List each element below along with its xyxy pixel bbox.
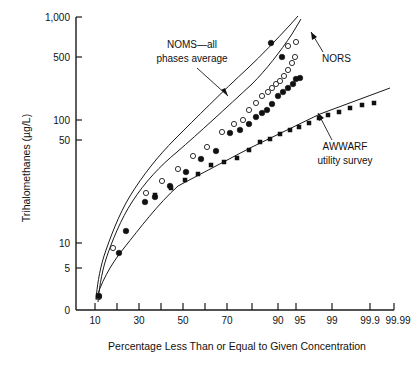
data-point [280,89,286,95]
y-tick-label-100: 100 [53,115,70,126]
data-point [222,160,226,164]
data-point [96,294,100,298]
data-point [231,121,236,126]
x-tick-label-95: 95 [294,315,306,326]
data-point [143,190,148,195]
data-point [253,114,259,120]
data-point [237,127,243,133]
data-point [285,85,291,91]
data-point [372,101,376,105]
y-tick-label-500: 500 [53,52,70,63]
awwarf-label-line1: AWWARF [323,141,368,152]
data-point [285,67,290,72]
data-point [326,113,330,117]
chart-container: 1,000 500 100 50 10 5 0 10 30 50 [0,0,417,366]
data-point [169,186,173,190]
data-point [290,81,296,87]
data-point [275,93,281,99]
data-point [292,54,297,59]
data-point [198,156,204,162]
data-point [269,101,275,107]
data-point [285,43,290,48]
data-point [277,78,282,83]
data-point [307,121,311,125]
data-point [190,153,195,158]
data-point [268,137,272,141]
x-tick-label-99: 99 [326,315,338,326]
y-axis-title: Trihalomethanes (µg/L) [20,114,32,222]
x-tick-label-10: 10 [89,315,101,326]
data-point [297,125,301,129]
noms-label-line1: NOMS—all [167,39,217,50]
data-point [360,103,364,107]
y-tick-label-0: 0 [64,305,70,316]
data-point [247,148,251,152]
data-point [153,193,157,197]
data-point [279,54,285,60]
data-point [204,144,209,149]
data-point [268,40,274,46]
data-point [253,100,258,105]
x-tick-label-70: 70 [221,315,233,326]
y-tick-label-1000: 1,000 [45,12,70,23]
y-tick-label-50: 50 [59,135,71,146]
data-point [110,245,115,250]
data-point [209,163,213,167]
data-point [240,117,245,122]
data-point [123,228,129,234]
x-tick-label-99-99: 99.99 [385,315,410,326]
data-point [159,178,164,183]
data-point [337,110,341,114]
x-axis-title: Percentage Less Than or Equal to Given C… [108,340,366,352]
data-point [265,89,270,94]
noms-label-line2: phases average [156,53,228,64]
data-point [116,250,122,256]
data-point [183,169,189,175]
data-point [246,107,251,112]
x-tick-label-90: 90 [272,315,284,326]
data-point [183,178,187,182]
data-point [213,148,219,154]
data-point [264,107,270,113]
y-tick-label-5: 5 [64,263,70,274]
data-point [288,128,292,132]
nors-label: NORS [322,53,351,64]
data-point [297,75,303,81]
data-point [259,110,265,116]
awwarf-label-line2: utility survey [317,155,372,166]
data-point [142,199,148,205]
trihalomethanes-probability-plot: 1,000 500 100 50 10 5 0 10 30 50 [0,0,417,366]
data-point [219,129,224,134]
x-tick-label-50: 50 [177,315,189,326]
y-tick-label-10: 10 [59,238,71,249]
data-point [175,166,180,171]
data-point [196,172,200,176]
data-point [246,121,252,127]
data-point [348,106,352,110]
data-point [259,93,264,98]
data-point [258,140,262,144]
data-point [227,130,233,136]
data-point [235,156,239,160]
data-point [289,60,294,65]
x-tick-label-99-9: 99.9 [360,315,380,326]
x-tick-label-30: 30 [133,315,145,326]
data-point [269,85,274,90]
data-point [278,132,282,136]
data-point [293,39,298,44]
data-point [281,73,286,78]
